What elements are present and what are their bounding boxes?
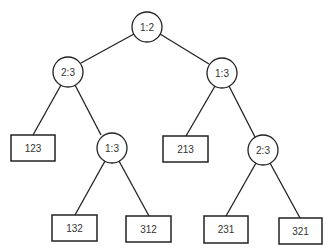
- edge-root-left: [81, 34, 134, 63]
- node-right-label: 1:3: [215, 68, 229, 79]
- leaf-231: 231: [204, 216, 248, 243]
- edge-node23-leaf321: [270, 163, 300, 218]
- edge-right-leaf213: [186, 86, 215, 136]
- node-root-label: 1:2: [140, 22, 154, 33]
- node-left-right: 1:3: [97, 133, 127, 163]
- node-left-label: 2:3: [61, 67, 75, 78]
- node-left-right-label: 1:3: [105, 143, 119, 154]
- leaf-123-label: 123: [25, 143, 42, 154]
- leaf-132: 132: [52, 215, 97, 241]
- edge-left-leaf123: [33, 85, 61, 135]
- edge-left-node13: [75, 85, 101, 135]
- leaf-312-label: 312: [140, 224, 157, 235]
- decision-tree-diagram: 1:2 2:3 1:3 1:3 2:3 123 213 132 312 231 …: [0, 0, 332, 252]
- leaf-213-label: 213: [177, 144, 194, 155]
- node-right-right-label: 2:3: [256, 145, 270, 156]
- edge-node13-leaf132: [75, 161, 105, 215]
- node-right: 1:3: [207, 58, 237, 88]
- leaf-231-label: 231: [218, 224, 235, 235]
- edge-right-node23: [229, 86, 255, 137]
- edge-node13-leaf312: [119, 161, 149, 216]
- node-right-right: 2:3: [248, 135, 278, 165]
- leaf-321: 321: [279, 218, 322, 244]
- leaf-123: 123: [11, 135, 55, 161]
- leaf-312: 312: [126, 216, 171, 242]
- edge-root-right: [160, 34, 209, 64]
- leaf-321-label: 321: [292, 226, 309, 237]
- leaf-132-label: 132: [66, 223, 83, 234]
- node-root: 1:2: [132, 12, 162, 42]
- node-left: 2:3: [53, 57, 83, 87]
- edge-node23-leaf231: [226, 163, 256, 216]
- leaf-213: 213: [163, 136, 208, 162]
